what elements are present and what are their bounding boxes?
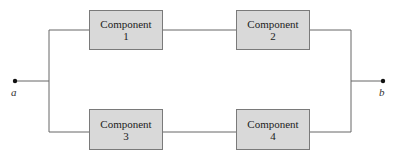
component-4-name: Component xyxy=(247,118,298,130)
component-2-box: Component 2 xyxy=(236,10,310,50)
component-3-number: 3 xyxy=(123,130,129,142)
terminal-a-dot-icon xyxy=(13,79,17,83)
component-2-name: Component xyxy=(247,18,298,30)
component-4-box: Component 4 xyxy=(236,109,310,150)
component-1-box: Component 1 xyxy=(89,10,163,50)
component-3-name: Component xyxy=(100,118,151,130)
component-2-number: 2 xyxy=(270,30,276,42)
component-1-name: Component xyxy=(100,18,151,30)
component-4-number: 4 xyxy=(270,130,276,142)
terminal-b-dot-icon xyxy=(381,79,385,83)
reliability-diagram: Component 1 Component 2 Component 3 Comp… xyxy=(0,0,396,161)
component-1-number: 1 xyxy=(123,30,129,42)
terminal-a-label: a xyxy=(11,86,17,98)
component-3-box: Component 3 xyxy=(89,109,163,150)
wiring xyxy=(0,0,396,161)
terminal-b-label: b xyxy=(379,86,385,98)
